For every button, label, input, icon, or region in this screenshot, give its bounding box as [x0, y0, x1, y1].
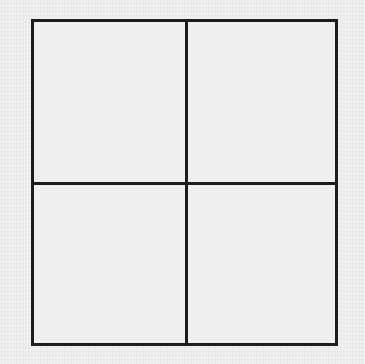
cell-top-left — [34, 22, 185, 182]
two-by-two-grid — [31, 19, 338, 346]
cell-top-right — [188, 22, 335, 182]
cell-bottom-right — [188, 185, 335, 343]
horizontal-divider — [34, 182, 335, 185]
cell-bottom-left — [34, 185, 185, 343]
